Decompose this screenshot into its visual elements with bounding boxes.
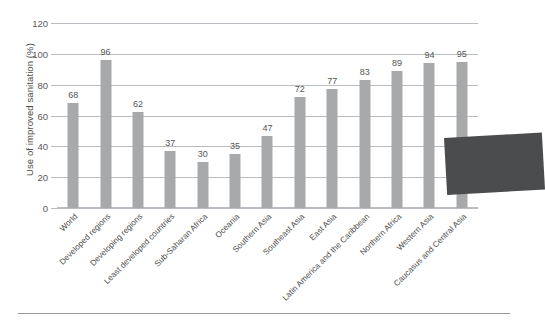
category-slot: East Asia	[316, 212, 348, 213]
plot-area: 020406080100120 689662373035477277838994…	[57, 23, 478, 208]
bar-value-label: 72	[295, 84, 305, 94]
bar-value-label: 95	[457, 49, 467, 59]
bar-value-label: 89	[392, 58, 402, 68]
category-slot: Caucasus and Central Asia	[446, 212, 478, 213]
category-slot: Sub-Saharan Africa	[187, 212, 219, 213]
category-slot: Southern Asia	[251, 212, 283, 213]
bar-value-label: 37	[165, 138, 175, 148]
category-slot: Latin America and the Caribbean	[348, 212, 380, 213]
bar-value-label: 47	[262, 123, 272, 133]
category-slot: Oceania	[219, 212, 251, 213]
y-tick-label-0: 0	[43, 203, 48, 214]
bar	[262, 136, 273, 208]
y-axis-title: Use of improved sanitation (%)	[24, 15, 35, 205]
bar-slot: 83	[348, 23, 380, 208]
bars-group: 68966237303547727783899495	[57, 23, 478, 208]
y-tick-label-80: 80	[37, 79, 48, 90]
footer-divider	[18, 313, 510, 314]
bar	[359, 80, 370, 208]
occluding-rectangle	[444, 133, 545, 195]
y-tick-label-120: 120	[32, 18, 48, 29]
bar-value-label: 30	[198, 149, 208, 159]
category-slot: Developing regions	[122, 212, 154, 213]
bar-slot: 68	[57, 23, 89, 208]
bar	[68, 103, 79, 208]
bar	[100, 60, 111, 208]
bar-value-label: 94	[424, 50, 434, 60]
bar-value-label: 68	[68, 90, 78, 100]
y-tick-label-100: 100	[32, 48, 48, 59]
x-axis-category-labels: WorldDeveloped regionsDeveloping regions…	[57, 212, 478, 312]
category-slot: Least developed countries	[154, 212, 186, 213]
category-slot: Western Asia	[413, 212, 445, 213]
bar-slot: 96	[89, 23, 121, 208]
y-tick-mark-0	[51, 208, 57, 209]
bar-slot: 47	[251, 23, 283, 208]
bar-value-label: 77	[327, 76, 337, 86]
category-slot: Developed regions	[89, 212, 121, 213]
bar-value-label: 62	[133, 99, 143, 109]
category-slot: Southeast Asia	[284, 212, 316, 213]
y-tick-label-20: 20	[37, 172, 48, 183]
category-slot: World	[57, 212, 89, 213]
y-tick-label-40: 40	[37, 141, 48, 152]
bar-value-label: 96	[101, 47, 111, 57]
bar-value-label: 83	[360, 67, 370, 77]
category-slot: Northern Africa	[381, 212, 413, 213]
y-tick-label-60: 60	[37, 110, 48, 121]
